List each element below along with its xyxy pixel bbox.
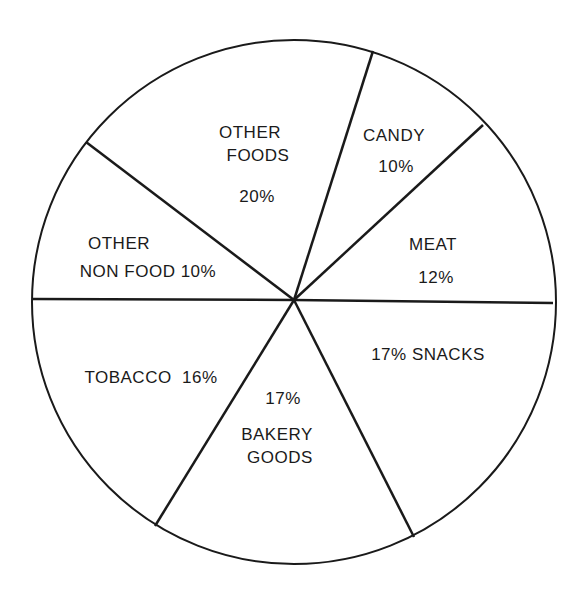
label-bakery-pct: 17% [265, 389, 301, 408]
label-meat-line1: MEAT [409, 235, 457, 254]
label-tobacco: TOBACCO 16% [84, 368, 217, 387]
label-meat-pct: 12% [418, 268, 454, 287]
divider-tobacco-other-non-food [33, 299, 294, 300]
label-other-foods-line2: FOODS [227, 146, 290, 165]
label-snacks: 17% SNACKS [371, 345, 485, 364]
label-other-foods-line1: OTHER [219, 123, 281, 142]
pie-chart: OTHER FOODS 20% CANDY 10% MEAT 12% 17% S… [0, 0, 577, 591]
label-bakery-line1: BAKERY [241, 425, 313, 444]
label-bakery-line2: GOODS [247, 448, 313, 467]
label-other-non-food-line2: NON FOOD 10% [80, 262, 216, 281]
label-other-non-food-line1: OTHER [88, 234, 150, 253]
label-candy-pct: 10% [378, 157, 414, 176]
label-candy-line1: CANDY [363, 126, 425, 145]
label-other-foods-pct: 20% [239, 187, 275, 206]
